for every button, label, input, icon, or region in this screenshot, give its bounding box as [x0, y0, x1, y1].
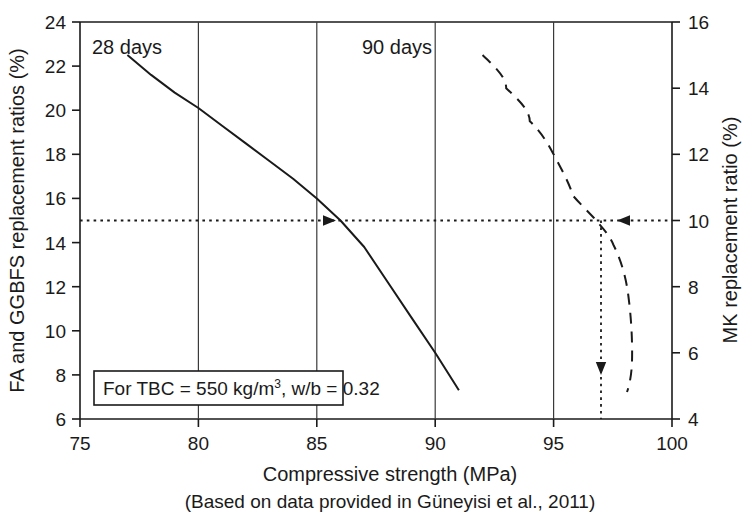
x-axis-title: Compressive strength (MPa) — [263, 463, 518, 485]
bottom-axis-ticks — [80, 419, 672, 427]
ytick-label-18: 18 — [45, 144, 66, 165]
left-axis-ticks — [72, 22, 80, 419]
vertical-guide — [596, 221, 606, 420]
horizontal-guide — [80, 215, 672, 225]
xtick-label-95: 95 — [543, 433, 564, 454]
series-label-90-days: 90 days — [362, 36, 432, 58]
ytick-label-20: 20 — [45, 100, 66, 121]
figure-container: 24 22 20 18 16 14 12 10 8 6 16 14 12 10 … — [0, 0, 756, 524]
xtick-label-75: 75 — [69, 433, 90, 454]
y2tick-label-8: 8 — [688, 277, 699, 298]
ytick-label-24: 24 — [45, 12, 67, 33]
left-arrow-icon — [617, 215, 630, 225]
bottom-tick-labels: 75 80 85 90 95 100 — [69, 433, 687, 454]
parameter-box-prefix: For TBC = 550 kg/m — [103, 378, 274, 399]
y2tick-label-6: 6 — [688, 343, 699, 364]
y-axis-title: FA and GGBFS replacement ratios (%) — [6, 48, 28, 393]
right-arrow-icon — [323, 215, 336, 225]
y2tick-label-14: 14 — [688, 78, 710, 99]
ytick-label-10: 10 — [45, 321, 66, 342]
parameter-box-suffix: , w/b = 0.32 — [281, 378, 380, 399]
series-label-28-days: 28 days — [92, 36, 162, 58]
left-tick-labels: 24 22 20 18 16 14 12 10 8 6 — [45, 12, 67, 430]
ytick-label-14: 14 — [45, 233, 67, 254]
series-28-days-curve — [127, 55, 459, 390]
series-90-days-curve — [483, 55, 633, 392]
parameter-box: For TBC = 550 kg/m3, w/b = 0.32 — [94, 371, 380, 405]
y2tick-label-10: 10 — [688, 211, 709, 232]
y2-axis-title: MK replacement ratio (%) — [719, 117, 741, 344]
ytick-label-16: 16 — [45, 188, 66, 209]
right-axis-ticks — [672, 22, 680, 419]
ytick-label-12: 12 — [45, 277, 66, 298]
xtick-label-85: 85 — [306, 433, 327, 454]
ytick-label-6: 6 — [55, 409, 66, 430]
xtick-label-100: 100 — [656, 433, 688, 454]
figure-caption: (Based on data provided in Güneyisi et a… — [185, 491, 596, 512]
down-arrow-icon — [596, 362, 606, 375]
xtick-label-90: 90 — [425, 433, 446, 454]
y2tick-label-16: 16 — [688, 12, 709, 33]
ytick-label-22: 22 — [45, 56, 66, 77]
chart-canvas: 24 22 20 18 16 14 12 10 8 6 16 14 12 10 … — [0, 0, 756, 524]
right-tick-labels: 16 14 12 10 8 6 4 — [688, 12, 710, 430]
y2tick-label-12: 12 — [688, 144, 709, 165]
y2tick-label-4: 4 — [688, 409, 699, 430]
parameter-box-text: For TBC = 550 kg/m3, w/b = 0.32 — [103, 377, 380, 399]
xtick-label-80: 80 — [188, 433, 209, 454]
ytick-label-8: 8 — [55, 365, 66, 386]
